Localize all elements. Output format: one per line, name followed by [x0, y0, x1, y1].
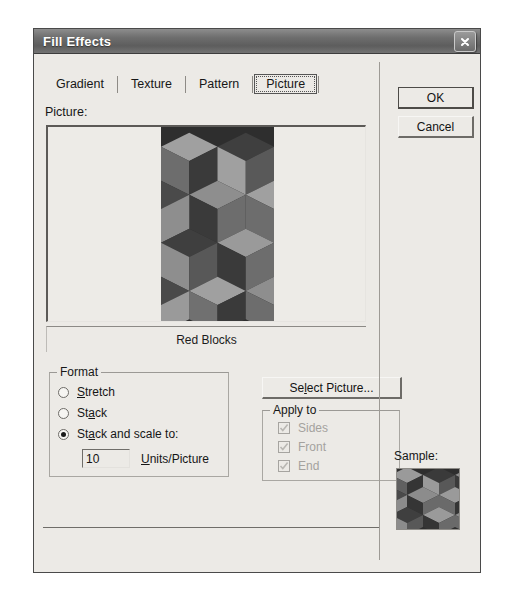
- dialog-body: Gradient Texture Pattern Picture Picture…: [34, 54, 480, 572]
- radio-stack-and-scale-to[interactable]: Stack and scale to:: [58, 427, 178, 441]
- checkbox-end-label: End: [298, 459, 319, 473]
- tab-texture[interactable]: Texture: [119, 74, 184, 94]
- select-picture-button-label: Select Picture...: [289, 381, 373, 395]
- format-group: Format Stretch Stack Stack and scale to:: [49, 372, 229, 477]
- cancel-button[interactable]: Cancel: [398, 116, 474, 138]
- checkmark-icon: [279, 442, 289, 452]
- format-group-title: Format: [57, 365, 101, 379]
- checkbox-sides-label: Sides: [298, 421, 328, 435]
- checkbox-indicator: [278, 460, 290, 472]
- content-panel: Gradient Texture Pattern Picture Picture…: [34, 54, 379, 572]
- panel-bottom-edge: [43, 527, 380, 528]
- radio-stack-and-scale-to-label: Stack and scale to:: [77, 427, 178, 441]
- radio-stack[interactable]: Stack: [58, 406, 107, 420]
- units-per-picture-input[interactable]: [82, 449, 130, 468]
- radio-indicator: [58, 387, 69, 398]
- apply-to-group-title: Apply to: [270, 403, 319, 417]
- radio-indicator: [58, 408, 69, 419]
- checkbox-sides: Sides: [278, 421, 328, 435]
- sample-label: Sample:: [394, 449, 438, 463]
- checkbox-end: End: [278, 459, 319, 473]
- red-blocks-pattern-preview: [161, 127, 274, 322]
- checkbox-front: Front: [278, 440, 326, 454]
- fill-effects-dialog: Fill Effects Gradient Texture Pattern Pi…: [33, 28, 481, 573]
- dialog-titlebar: Fill Effects: [34, 29, 480, 54]
- tab-divider: [318, 76, 319, 93]
- dialog-title: Fill Effects: [43, 34, 111, 49]
- radio-stack-label: Stack: [77, 406, 107, 420]
- radio-stretch-label: Stretch: [77, 385, 115, 399]
- vertical-divider: [379, 62, 380, 560]
- picture-caption: Red Blocks: [176, 333, 237, 347]
- tab-divider: [117, 76, 118, 93]
- checkmark-icon: [279, 461, 289, 471]
- radio-indicator-selected: [58, 429, 69, 440]
- picture-preview-area: [46, 125, 366, 322]
- tab-gradient[interactable]: Gradient: [44, 74, 116, 94]
- tab-picture[interactable]: Picture: [254, 74, 317, 94]
- checkbox-front-label: Front: [298, 440, 326, 454]
- picture-preview-image: [161, 127, 274, 322]
- close-button[interactable]: [454, 31, 476, 52]
- units-per-picture-label: Units/Picture: [141, 452, 209, 466]
- sample-blocks-pattern: [397, 469, 460, 530]
- checkbox-indicator: [278, 422, 290, 434]
- screen: Fill Effects Gradient Texture Pattern Pi…: [0, 0, 518, 602]
- select-picture-button[interactable]: Select Picture...: [262, 377, 402, 399]
- checkmark-icon: [279, 423, 289, 433]
- tab-divider: [185, 76, 186, 93]
- tab-divider: [252, 76, 253, 93]
- ok-button[interactable]: OK: [398, 87, 474, 109]
- radio-stretch[interactable]: Stretch: [58, 385, 115, 399]
- tab-strip: Gradient Texture Pattern Picture: [44, 73, 320, 95]
- picture-label: Picture:: [45, 105, 87, 119]
- tab-pattern[interactable]: Pattern: [187, 74, 251, 94]
- close-x-icon: [459, 36, 471, 48]
- picture-caption-box: Red Blocks: [46, 326, 366, 352]
- checkbox-indicator: [278, 441, 290, 453]
- sample-preview: [396, 468, 460, 530]
- units-row: Units/Picture: [82, 449, 209, 468]
